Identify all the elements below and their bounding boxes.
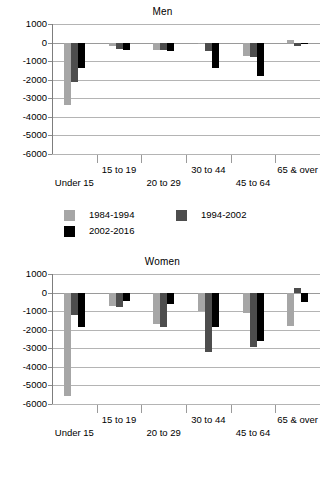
category-tick bbox=[275, 154, 276, 163]
bar bbox=[167, 293, 174, 304]
ytick-label: 0 bbox=[42, 288, 47, 298]
bar bbox=[116, 293, 123, 307]
bar bbox=[78, 293, 85, 328]
bar bbox=[294, 288, 301, 292]
ytick-label: 1000 bbox=[26, 19, 47, 29]
legend-swatch-2002-2016 bbox=[64, 226, 75, 237]
x-axis-line bbox=[52, 154, 320, 155]
x-axis-line bbox=[52, 404, 320, 405]
bar bbox=[243, 293, 250, 313]
gridline--4000 bbox=[52, 117, 320, 118]
gridline--5000 bbox=[52, 135, 320, 136]
ytick-label: 0 bbox=[42, 38, 47, 48]
chart-panel-men: Men 10000-1000-2000-3000-4000-5000-6000U… bbox=[0, 0, 325, 250]
xtick-label-15-to-19: 15 to 19 bbox=[87, 165, 151, 175]
gridline-1000 bbox=[52, 24, 320, 25]
bar bbox=[205, 293, 212, 352]
chart-title-men: Men bbox=[0, 0, 325, 20]
bar bbox=[212, 43, 219, 69]
gridline-0 bbox=[52, 43, 320, 44]
bar bbox=[123, 43, 130, 50]
legend-label: 1994-2002 bbox=[201, 210, 246, 220]
ytick-label: -5000 bbox=[23, 380, 47, 390]
bar bbox=[287, 293, 294, 326]
bar bbox=[212, 293, 219, 327]
bar bbox=[160, 293, 167, 328]
bar bbox=[71, 43, 78, 82]
gridline--2000 bbox=[52, 80, 320, 81]
category-tick bbox=[141, 404, 142, 413]
ytick-label: -4000 bbox=[23, 112, 47, 122]
gridline--1000 bbox=[52, 61, 320, 62]
gridline--3000 bbox=[52, 98, 320, 99]
bar bbox=[301, 293, 308, 302]
gridline--3000 bbox=[52, 348, 320, 349]
bar bbox=[109, 293, 116, 306]
category-tick bbox=[186, 404, 187, 413]
legend-item-1984-1994[interactable]: 1984-1994 bbox=[64, 210, 176, 221]
bar bbox=[205, 43, 212, 52]
legend-men: 1984-19941994-20022002-2016 bbox=[0, 207, 325, 239]
ytick-label: -1000 bbox=[23, 56, 47, 66]
bar bbox=[109, 43, 116, 46]
legend-item-1994-2002[interactable]: 1994-2002 bbox=[176, 210, 246, 221]
bar bbox=[167, 43, 174, 51]
y-axis-line bbox=[52, 24, 53, 154]
legend-row: 1984-19941994-2002 bbox=[0, 207, 325, 223]
legend-swatch-1994-2002 bbox=[176, 210, 187, 221]
bar bbox=[153, 43, 160, 50]
gridline--1000 bbox=[52, 311, 320, 312]
ytick-label: -3000 bbox=[23, 93, 47, 103]
category-tick bbox=[231, 404, 232, 413]
gridline--2000 bbox=[52, 330, 320, 331]
legend-item-2002-2016[interactable]: 2002-2016 bbox=[64, 226, 176, 237]
xtick-label-20-to-29: 20 to 29 bbox=[132, 178, 196, 188]
bar bbox=[250, 293, 257, 348]
chart-title-women: Women bbox=[0, 250, 325, 270]
xtick-label-65-over: 65 & over bbox=[266, 415, 325, 425]
category-tick bbox=[275, 404, 276, 413]
ytick-label: -6000 bbox=[23, 399, 47, 409]
bar bbox=[78, 43, 85, 68]
xtick-label-45-to-64: 45 to 64 bbox=[221, 428, 285, 438]
gridline-0 bbox=[52, 293, 320, 294]
xtick-label-45-to-64: 45 to 64 bbox=[221, 178, 285, 188]
chart-panel-women: Women 10000-1000-2000-3000-4000-5000-600… bbox=[0, 250, 325, 499]
xtick-label-65-over: 65 & over bbox=[266, 165, 325, 175]
bar bbox=[160, 43, 167, 50]
xtick-label-30-to-44: 30 to 44 bbox=[176, 415, 240, 425]
bar bbox=[153, 293, 160, 325]
xtick-label-under-15: Under 15 bbox=[42, 178, 106, 188]
y-axis-line bbox=[52, 274, 53, 404]
category-tick bbox=[231, 154, 232, 163]
category-tick bbox=[97, 154, 98, 163]
bar bbox=[64, 43, 71, 105]
xtick-label-under-15: Under 15 bbox=[42, 428, 106, 438]
bar bbox=[257, 293, 264, 341]
plot-area-men: 10000-1000-2000-3000-4000-5000-6000Under… bbox=[0, 20, 325, 196]
gridline-1000 bbox=[52, 274, 320, 275]
ytick-label: -1000 bbox=[23, 306, 47, 316]
gridline--4000 bbox=[52, 367, 320, 368]
bar bbox=[243, 43, 250, 57]
legend-row: 2002-2016 bbox=[0, 223, 325, 239]
legend-label: 1984-1994 bbox=[89, 210, 134, 220]
bar bbox=[64, 293, 71, 396]
plot-area-women: 10000-1000-2000-3000-4000-5000-6000Under… bbox=[0, 270, 325, 446]
gridline--5000 bbox=[52, 385, 320, 386]
xtick-label-20-to-29: 20 to 29 bbox=[132, 428, 196, 438]
xtick-label-15-to-19: 15 to 19 bbox=[87, 415, 151, 425]
ytick-label: -4000 bbox=[23, 362, 47, 372]
legend-label: 2002-2016 bbox=[89, 226, 134, 236]
ytick-label: -5000 bbox=[23, 130, 47, 140]
bar bbox=[123, 293, 130, 301]
ytick-label: -6000 bbox=[23, 149, 47, 159]
category-tick bbox=[186, 154, 187, 163]
xtick-label-30-to-44: 30 to 44 bbox=[176, 165, 240, 175]
bar bbox=[257, 43, 264, 76]
bar bbox=[71, 293, 78, 315]
bar bbox=[250, 43, 257, 58]
ytick-label: 1000 bbox=[26, 269, 47, 279]
bar bbox=[116, 43, 123, 49]
bar bbox=[301, 43, 308, 44]
